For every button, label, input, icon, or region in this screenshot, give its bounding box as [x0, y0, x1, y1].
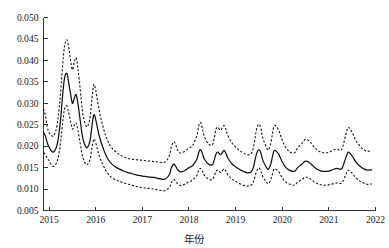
- line-chart-canvas: 0.0050.0100.0150.0200.0250.0300.0350.040…: [0, 0, 389, 248]
- y-tick-label: 0.030: [17, 98, 39, 109]
- x-tick-label: 2022: [366, 214, 385, 225]
- y-tick-label: 0.025: [17, 119, 39, 130]
- x-tick-label: 2017: [133, 214, 152, 225]
- y-tick-label: 0.005: [17, 205, 39, 216]
- x-tick-label: 2020: [273, 214, 292, 225]
- y-tick-label: 0.020: [17, 140, 39, 151]
- x-tick-label: 2021: [319, 214, 338, 225]
- y-tick-label: 0.015: [17, 162, 39, 173]
- y-tick-label: 0.050: [17, 12, 39, 23]
- chart-figure: 0.0050.0100.0150.0200.0250.0300.0350.040…: [0, 0, 389, 248]
- x-tick-label: 2019: [226, 214, 245, 225]
- x-tick-label: 2018: [179, 214, 198, 225]
- y-tick-label: 0.010: [17, 183, 39, 194]
- y-tick-label: 0.035: [17, 76, 39, 87]
- x-axis-title: 年份: [184, 233, 205, 245]
- x-tick-label: 2016: [86, 214, 105, 225]
- x-tick-label: 2015: [40, 214, 59, 225]
- y-tick-label: 0.040: [17, 55, 39, 66]
- y-tick-label: 0.045: [17, 33, 39, 44]
